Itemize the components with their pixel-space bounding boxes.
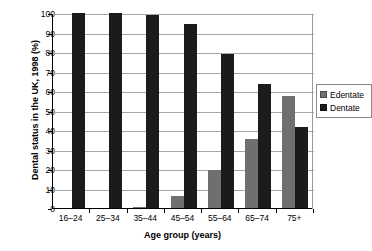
bar-group [96, 13, 122, 208]
x-tick-label: 75+ [271, 213, 317, 223]
bar-edentate-55-64 [208, 170, 221, 208]
bar-chart: Dental status in the UK, 1998 (%) 010203… [0, 0, 372, 251]
plot-area [52, 14, 313, 209]
bar-group [59, 13, 85, 208]
bar-dentate-35-44 [146, 15, 159, 208]
bar-group [133, 13, 159, 208]
bar-dentate-75+ [295, 127, 308, 208]
legend: Edentate Dentate [316, 84, 372, 118]
bar-dentate-25-34 [109, 13, 122, 208]
x-axis-title: Age group (years) [52, 230, 313, 240]
legend-label-dentate: Dentate [330, 103, 360, 113]
legend-swatch-dentate [320, 104, 327, 111]
bar-group [282, 13, 308, 208]
bar-group [208, 13, 234, 208]
bar-dentate-65-74 [258, 84, 271, 208]
bar-edentate-35-44 [133, 207, 146, 208]
bar-edentate-75+ [282, 96, 295, 208]
bar-dentate-16-24 [72, 13, 85, 208]
bar-group [245, 13, 271, 208]
legend-swatch-edentate [320, 91, 327, 98]
legend-item-edentate: Edentate [320, 88, 369, 101]
y-tick-mark [48, 209, 52, 210]
bar-edentate-45-54 [171, 196, 184, 208]
legend-label-edentate: Edentate [330, 90, 364, 100]
bar-dentate-45-54 [184, 24, 197, 208]
bar-edentate-65-74 [245, 139, 258, 208]
legend-item-dentate: Dentate [320, 101, 369, 114]
x-tick-mark [313, 209, 314, 213]
bar-group [171, 13, 197, 208]
bar-dentate-55-64 [221, 54, 234, 208]
